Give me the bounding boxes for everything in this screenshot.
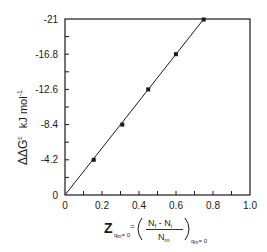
x-label-z: Z	[104, 220, 113, 236]
x-axis-ticks	[84, 191, 232, 195]
svg-text:ΔΔGckJ mol-1: ΔΔGckJ mol-1	[16, 90, 30, 165]
x-tick-label: 0.2	[95, 200, 109, 211]
x-label-denominator: Nm	[158, 232, 170, 243]
x-label-post-sub: qm= 0	[191, 238, 208, 245]
x-label-sub: qm= 0	[114, 232, 131, 239]
y-axis-label: ΔΔGckJ mol-1	[16, 90, 30, 165]
y-tick-label: -12.6	[35, 84, 58, 95]
x-tick-label: 1.0	[243, 200, 257, 211]
y-label-main: ΔΔG	[16, 140, 30, 165]
x-label-numerator: Nf - Ni	[148, 218, 172, 229]
y-tick-label: -21	[44, 14, 59, 25]
data-point	[146, 87, 150, 91]
data-point	[174, 52, 178, 56]
x-label-eq: =	[130, 222, 135, 231]
y-tick-labels: 0 -4.2 -8.4 -12.6 -16.8 -21	[35, 14, 58, 201]
data-point	[202, 18, 206, 22]
plot-frame	[65, 19, 250, 195]
x-axis-label: Z qm= 0 = Nf - Ni Nm qm= 0	[104, 218, 208, 245]
y-label-units-sup: -1	[16, 90, 23, 96]
y-tick-label: -8.4	[41, 119, 59, 130]
fit-line	[65, 19, 204, 195]
y-label-sup: c	[16, 136, 23, 140]
y-tick-label: -4.2	[41, 154, 59, 165]
right-paren-icon	[185, 218, 189, 240]
left-paren-icon	[138, 218, 142, 240]
y-tick-label: 0	[52, 190, 58, 201]
x-tick-label: 0.6	[169, 200, 183, 211]
chart: 0 0.2 0.4 0.6 0.8 1.0 0 -4.2 -8.4 -12.6 …	[0, 0, 267, 252]
y-label-units: kJ mol	[17, 96, 29, 128]
x-tick-label: 0.8	[206, 200, 220, 211]
x-tick-labels: 0 0.2 0.4 0.6 0.8 1.0	[62, 200, 257, 211]
data-point	[120, 123, 124, 127]
x-tick-label: 0.4	[132, 200, 146, 211]
x-tick-label: 0	[62, 200, 68, 211]
y-tick-label: -16.8	[35, 49, 58, 60]
data-point	[92, 158, 96, 162]
